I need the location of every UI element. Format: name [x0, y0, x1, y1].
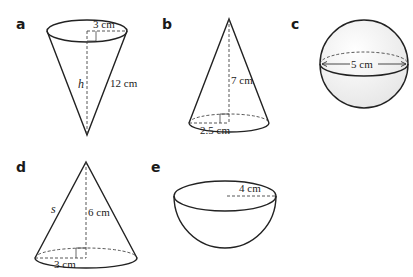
figure-a-radius-label: 3 cm [93, 18, 115, 30]
figure-label-d: d [16, 159, 26, 175]
figure-c-diameter-label: 5 cm [351, 58, 373, 70]
figure-d-radius-label: 3 cm [54, 258, 76, 270]
figure-a-height-label: h [78, 77, 84, 91]
figures-canvas: a 3 cm h 12 cm b 7 cm 2.5 cm c 5 cm d [0, 0, 413, 277]
figure-label-b: b [162, 16, 172, 32]
figure-b-cone: b 7 cm 2.5 cm [162, 16, 269, 136]
figure-label-a: a [16, 16, 25, 32]
figure-label-e: e [151, 159, 161, 175]
figure-d-slant-label: s [51, 202, 56, 216]
figure-b-height-label: 7 cm [231, 74, 253, 86]
figure-d-cone: d s 6 cm 3 cm [16, 159, 137, 270]
figure-e-radius-label: 4 cm [239, 182, 261, 194]
figure-a-inverted-cone: a 3 cm h 12 cm [16, 16, 138, 135]
figure-label-c: c [291, 16, 299, 32]
figure-d-height-label: 6 cm [88, 206, 110, 218]
figure-e-hemisphere: e 4 cm [151, 159, 276, 248]
figure-a-slant-label: 12 cm [110, 77, 138, 89]
figure-b-radius-label: 2.5 cm [200, 124, 230, 136]
figure-c-sphere: c 5 cm [291, 16, 408, 108]
